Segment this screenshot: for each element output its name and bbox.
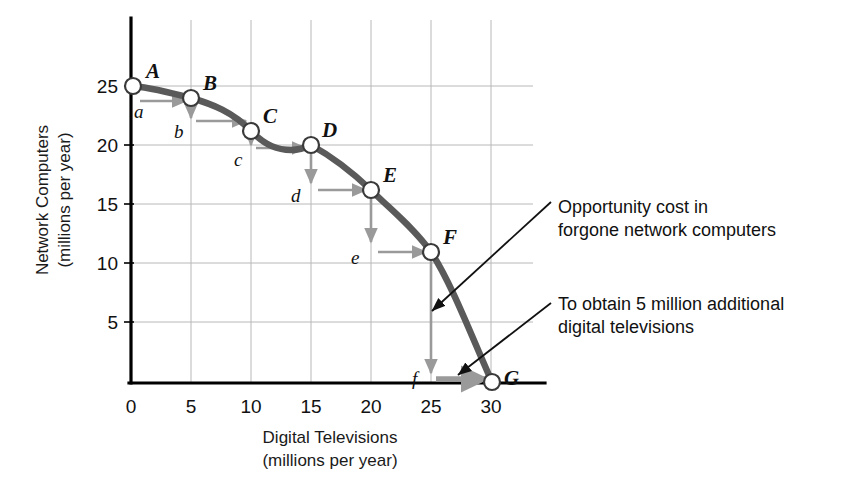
x-tick-label-25: 25 (420, 396, 441, 417)
ppf-point-label-B: B (202, 71, 217, 95)
ppf-point-D[interactable] (303, 137, 319, 153)
chart-axes (124, 18, 545, 383)
y-tick-labels: 25 20 15 10 5 (97, 76, 118, 333)
y-axis-units: (millions per year) (55, 132, 74, 267)
step-arrow-label-d: d (291, 185, 301, 206)
x-tick-label-0: 0 (126, 396, 137, 417)
ppf-point-F[interactable] (423, 244, 439, 260)
annotation-additional-televisions-line2: digital televisions (558, 317, 694, 337)
x-tick-labels: 0 5 10 15 20 25 30 (126, 396, 502, 417)
annotation-opportunity-cost: Opportunity cost in forgone network comp… (558, 197, 776, 240)
ppf-point-label-G: G (504, 366, 519, 390)
y-tick-label-20: 20 (97, 135, 118, 156)
annotation-opportunity-cost-line2: forgone network computers (558, 220, 776, 240)
step-arrow-label-e: e (351, 247, 359, 268)
y-tick-label-5: 5 (107, 312, 118, 333)
ppf-point-labels: A B C D E F G (144, 59, 519, 390)
y-tick-label-15: 15 (97, 194, 118, 215)
ppf-point-label-A: A (144, 59, 160, 83)
chart-canvas: 25 20 15 10 5 0 5 10 15 20 25 30 Digital… (0, 0, 857, 499)
ppf-point-E[interactable] (363, 182, 379, 198)
ppf-point-C[interactable] (243, 123, 259, 139)
annotation-additional-televisions-line1: To obtain 5 million additional (558, 294, 784, 314)
x-tick-label-20: 20 (360, 396, 381, 417)
x-tick-label-30: 30 (480, 396, 501, 417)
ppf-point-label-E: E (382, 163, 397, 187)
y-tick-label-10: 10 (97, 253, 118, 274)
chart-gridlines (131, 20, 533, 382)
y-tick-label-25: 25 (97, 76, 118, 97)
ppf-curve (133, 86, 492, 382)
axis-titles: Digital Televisions (millions per year) … (33, 125, 398, 470)
x-axis-title: Digital Televisions (263, 428, 398, 447)
ppf-point-G[interactable] (484, 374, 500, 390)
ppf-point-label-F: F (442, 225, 457, 249)
step-arrow-label-f: f (412, 368, 420, 389)
ppf-point-A[interactable] (125, 78, 141, 94)
ppf-point-label-D: D (321, 118, 337, 142)
x-tick-label-10: 10 (240, 396, 261, 417)
x-tick-label-15: 15 (300, 396, 321, 417)
ppf-chart-figure: 25 20 15 10 5 0 5 10 15 20 25 30 Digital… (0, 0, 857, 499)
ppf-point-B[interactable] (183, 90, 199, 106)
step-arrow-labels: a b c d e f (134, 101, 420, 389)
step-arrow-label-c: c (234, 149, 243, 170)
x-tick-label-5: 5 (186, 396, 197, 417)
ppf-point-label-C: C (263, 104, 278, 128)
y-axis-title: Network Computers (33, 125, 52, 275)
x-axis-units: (millions per year) (262, 451, 397, 470)
step-arrow-label-a: a (134, 101, 144, 122)
annotation-opportunity-cost-line1: Opportunity cost in (558, 197, 708, 217)
annotation-additional-televisions: To obtain 5 million additional digital t… (558, 294, 784, 337)
step-arrow-label-b: b (174, 121, 184, 142)
